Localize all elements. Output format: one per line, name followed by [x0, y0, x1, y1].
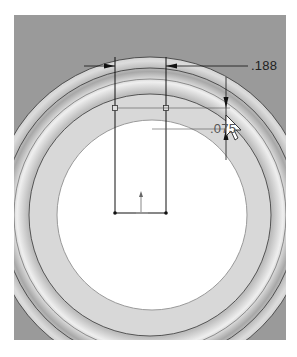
- graphics-viewport[interactable]: .188 .075: [14, 15, 286, 340]
- model-view: [14, 15, 286, 340]
- center-hole: [57, 120, 247, 310]
- dimension-188-label[interactable]: .188: [251, 58, 277, 73]
- dimension-075-label[interactable]: .075: [210, 121, 236, 136]
